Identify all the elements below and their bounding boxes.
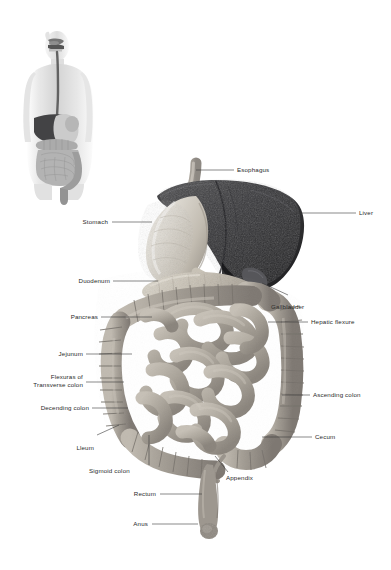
leader-ileum: [97, 425, 119, 435]
organ-liver: [150, 175, 315, 300]
label-flexuras-line2: Transverse colon: [33, 381, 83, 388]
label-rectum: Rectum: [122, 490, 156, 499]
label-sigmoid-colon: Sigmoid colon: [89, 467, 130, 476]
label-stomach: Stomach: [66, 218, 108, 227]
label-ascending-colon: Ascending colon: [313, 391, 361, 400]
organ-small-intestine: [142, 309, 263, 449]
organ-rectum-anus: [198, 464, 218, 539]
label-gallbladder: Gallbladder: [271, 303, 304, 312]
label-jejunum: Jejunum: [44, 350, 83, 359]
label-decending-colon: Decending colon: [20, 404, 89, 413]
main-specimen-group: [94, 163, 315, 539]
inset-figure-group: [0, 0, 391, 570]
leader-gallbladder: [262, 283, 288, 295]
label-appendix: Appendix: [226, 474, 253, 483]
label-flexuras-transverse-colon: Flexuras of Transverse colon: [18, 373, 83, 389]
label-hepatic-flexure: Hepatic flexure: [311, 318, 355, 327]
digestive-system-figure: Esophagus Liver Stomach Duodenum Gallbla…: [0, 0, 391, 570]
label-duodenum: Duodenum: [62, 277, 110, 286]
label-esophagus: Esophagus: [237, 166, 269, 175]
label-cecum: Cecum: [315, 433, 335, 442]
label-anus: Anus: [120, 520, 148, 529]
organ-large-intestine: [99, 284, 304, 478]
label-flexuras-line1: Flexuras of: [51, 373, 83, 380]
organ-appendix: [214, 456, 224, 481]
label-liver: Liver: [359, 209, 373, 218]
organ-pancreas-duodenum: [142, 272, 256, 307]
organ-gallbladder: [242, 267, 267, 290]
organ-stomach: [135, 190, 230, 290]
label-pancreas: Pancreas: [56, 313, 98, 322]
figure-artwork: [0, 0, 391, 570]
label-ileum: Lleum: [62, 444, 94, 453]
organ-esophagus: [180, 163, 197, 222]
leader-appendix: [215, 456, 228, 472]
